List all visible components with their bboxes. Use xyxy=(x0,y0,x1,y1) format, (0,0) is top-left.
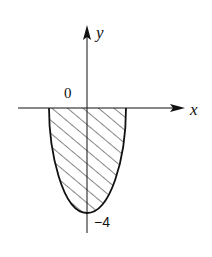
y-axis-label: y xyxy=(94,23,104,42)
x-axis-label: x xyxy=(189,100,198,119)
diagram-canvas: y x 0 −4 xyxy=(0,0,212,257)
vertex-label: −4 xyxy=(94,214,110,230)
origin-label: 0 xyxy=(64,85,72,101)
